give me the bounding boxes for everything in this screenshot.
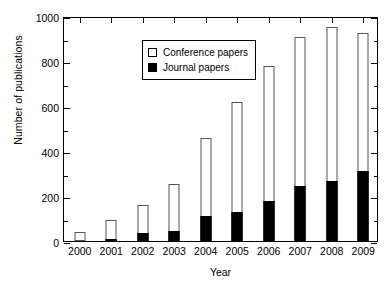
bar-2002: [137, 205, 148, 241]
legend-item-conference: Conference papers: [148, 45, 248, 60]
legend-swatch-conference-icon: [148, 48, 157, 57]
x-tick: [332, 18, 333, 23]
y-tick-minor: [374, 41, 378, 42]
y-axis-title: Number of publications: [12, 20, 24, 160]
chart-figure: Number of publications Year 020040060080…: [0, 0, 391, 295]
y-tick-major: [371, 198, 377, 199]
bar-segment-journal: [358, 171, 369, 241]
bar-2001: [106, 220, 117, 241]
y-tick-label: 800: [41, 57, 59, 69]
x-tick-label: 2008: [320, 245, 343, 257]
x-tick: [174, 18, 175, 23]
y-tick-label: 200: [41, 192, 59, 204]
x-tick: [237, 18, 238, 23]
y-tick-major: [371, 18, 377, 19]
y-tick-minor: [64, 221, 68, 222]
y-tick-label: 0: [53, 237, 59, 249]
x-tick-label: 2005: [226, 245, 249, 257]
x-tick-label: 2001: [100, 245, 123, 257]
bar-segment-journal: [200, 216, 211, 241]
bar-2006: [263, 66, 274, 242]
x-tick: [363, 18, 364, 23]
y-tick-minor: [374, 131, 378, 132]
x-tick-label: 2003: [163, 245, 186, 257]
legend-item-journal: Journal papers: [148, 60, 248, 75]
x-tick: [206, 18, 207, 23]
bar-segment-journal: [326, 181, 337, 241]
bar-segment-journal: [232, 212, 243, 241]
bar-2000: [74, 232, 85, 241]
y-tick-major: [371, 108, 377, 109]
plot-area: 02004006008001000 2000200120022003200420…: [63, 17, 378, 242]
bar-2009: [358, 33, 369, 241]
y-tick-label: 400: [41, 147, 59, 159]
bar-2005: [232, 102, 243, 242]
y-tick-minor: [64, 176, 68, 177]
bar-segment-journal: [169, 231, 180, 241]
x-axis-title: Year: [63, 266, 378, 278]
bar-2008: [326, 27, 337, 241]
y-tick-major: [371, 153, 377, 154]
x-tick-label: 2009: [352, 245, 375, 257]
y-tick-major: [64, 63, 70, 64]
y-tick-major: [64, 243, 70, 244]
chart-legend: Conference papers Journal papers: [142, 40, 256, 80]
y-tick-major: [64, 153, 70, 154]
x-tick-label: 2007: [289, 245, 312, 257]
x-tick: [300, 18, 301, 23]
y-tick-minor: [374, 86, 378, 87]
bar-segment-conference: [74, 232, 85, 241]
bar-2004: [200, 138, 211, 242]
y-tick-major: [64, 198, 70, 199]
x-tick: [143, 18, 144, 23]
x-tick-label: 2004: [194, 245, 217, 257]
y-tick-minor: [374, 221, 378, 222]
bar-2007: [295, 37, 306, 241]
bar-segment-journal: [137, 233, 148, 241]
x-tick: [111, 18, 112, 23]
legend-label-journal: Journal papers: [163, 62, 229, 73]
y-tick-major: [64, 108, 70, 109]
bar-segment-journal: [106, 239, 117, 241]
y-tick-major: [371, 243, 377, 244]
y-tick-minor: [374, 176, 378, 177]
legend-label-conference: Conference papers: [163, 47, 248, 58]
y-tick-minor: [64, 86, 68, 87]
y-tick-minor: [64, 131, 68, 132]
y-tick-label: 600: [41, 102, 59, 114]
x-tick-label: 2002: [131, 245, 154, 257]
y-tick-major: [371, 63, 377, 64]
y-tick-label: 1000: [36, 12, 59, 24]
x-tick-label: 2006: [257, 245, 280, 257]
legend-swatch-journal-icon: [148, 63, 157, 72]
y-tick-minor: [64, 41, 68, 42]
bar-segment-journal: [295, 186, 306, 241]
bar-segment-journal: [263, 201, 274, 242]
x-tick: [80, 18, 81, 23]
x-tick-label: 2000: [68, 245, 91, 257]
x-tick: [269, 18, 270, 23]
y-tick-major: [64, 18, 70, 19]
bar-2003: [169, 184, 180, 241]
